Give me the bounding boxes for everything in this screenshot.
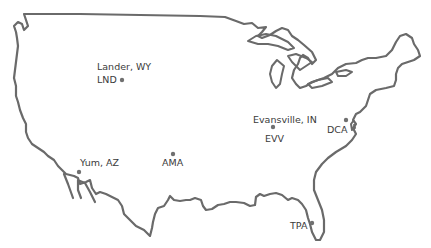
lnd-marker[interactable]	[120, 78, 124, 82]
evv-city-label: Evansville, IN	[253, 114, 317, 125]
lake-ontario	[336, 70, 352, 76]
lnd-code-label: LND	[97, 74, 117, 85]
lake-superior	[248, 34, 294, 50]
baja-coast-line	[64, 174, 73, 198]
evv-code-label: EVV	[265, 133, 284, 144]
yum-marker[interactable]	[77, 170, 81, 174]
us-outline	[14, 14, 420, 240]
ama-marker[interactable]	[171, 152, 175, 156]
yum-city-label: Yum, AZ	[80, 157, 119, 168]
lake-michigan	[270, 60, 284, 88]
dca-marker[interactable]	[344, 118, 348, 122]
lnd-city-label: Lander, WY	[97, 61, 151, 72]
lake-erie	[308, 78, 332, 88]
evv-marker[interactable]	[271, 125, 275, 129]
us-map	[0, 0, 431, 248]
tpa-code-label: TPA	[290, 220, 307, 231]
ama-code-label: AMA	[162, 157, 183, 168]
lake-huron	[288, 54, 312, 70]
tpa-marker[interactable]	[310, 221, 314, 225]
dca-code-label: DCA	[327, 124, 347, 135]
